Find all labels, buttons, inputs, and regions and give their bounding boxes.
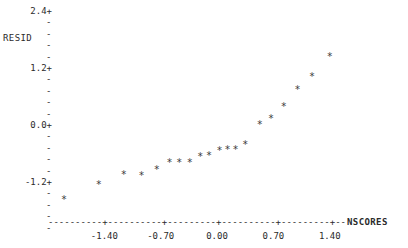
y-axis-minor-tick: - [46,98,51,107]
y-axis-minor-tick: - [46,132,51,141]
data-point-marker: * [206,151,212,157]
y-axis-minor-tick: - [46,201,51,210]
data-point-marker: * [216,146,222,152]
y-axis-minor-tick: - [46,167,51,176]
x-axis-tick-label: -1.40 [74,232,134,241]
x-axis-line: ----------+----------+---------+--------… [48,218,346,227]
character-scatter-plot: RESID 2.4+----1.2+----0.0+-----1.2+---- … [0,0,408,248]
data-point-marker: * [167,158,173,164]
data-point-marker: * [138,171,144,177]
y-axis-variable-label: RESID [3,34,32,43]
y-axis-tick-label: -1.2+ [10,178,52,187]
data-point-marker: * [233,145,239,151]
x-axis-variable-label: NSCORES [347,218,388,227]
y-axis-tick-label: 0.0+ [10,121,52,130]
data-point-marker: * [242,140,248,146]
data-point-marker: * [121,170,127,176]
data-point-marker: * [187,158,193,164]
y-axis-minor-tick: - [46,189,51,198]
y-axis-minor-tick: - [46,53,51,62]
data-point-marker: * [176,158,182,164]
y-axis-tick-label: 2.4+ [10,7,52,16]
data-point-marker: * [295,85,301,91]
data-point-marker: * [154,165,160,171]
data-point-marker: * [96,180,102,186]
y-axis-minor-tick: - [46,155,51,164]
data-point-marker: * [309,72,315,78]
y-axis-minor-tick: - [46,144,51,153]
x-axis-tick-label: 1.40 [300,232,360,241]
data-point-marker: * [197,152,203,158]
x-axis-tick-label: -0.70 [131,232,191,241]
y-axis-minor-tick: - [46,18,51,27]
y-axis-tick-label: 1.2+ [10,64,52,73]
data-point-marker: * [225,145,231,151]
y-axis-minor-tick: - [46,110,51,119]
data-point-marker: * [61,195,67,201]
data-point-marker: * [281,102,287,108]
data-point-marker: * [257,120,263,126]
y-axis-minor-tick: - [46,41,51,50]
y-axis-minor-tick: - [46,75,51,84]
y-axis-minor-tick: - [46,87,51,96]
data-point-marker: * [268,114,274,120]
x-axis-tick-label: 0.00 [187,232,247,241]
data-point-marker: * [327,52,333,58]
y-axis-minor-tick: - [46,30,51,39]
x-axis-tick-label: 0.70 [243,232,303,241]
